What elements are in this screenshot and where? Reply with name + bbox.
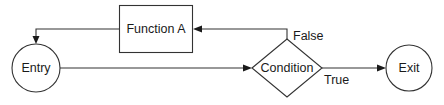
- arrowhead-icon: [243, 65, 252, 72]
- node-exit[interactable]: Exit: [386, 45, 432, 91]
- node-condition[interactable]: Condition: [252, 39, 322, 97]
- edge-function-a-to-entry: [33, 29, 120, 44]
- node-entry[interactable]: Entry: [12, 44, 60, 92]
- edge-label-true: True: [324, 73, 349, 87]
- arrowhead-icon: [33, 36, 40, 44]
- arrowhead-icon: [193, 26, 202, 33]
- edge-condition-to-function-a: [193, 26, 287, 40]
- exit-label: Exit: [399, 61, 420, 75]
- flowchart-diagram: Function A Entry Condition Exit False Tr…: [0, 0, 444, 105]
- edge-label-false: False: [293, 29, 324, 43]
- arrowhead-icon: [377, 65, 386, 72]
- function-a-label: Function A: [126, 22, 186, 36]
- entry-label: Entry: [21, 61, 51, 75]
- node-function-a[interactable]: Function A: [120, 6, 193, 53]
- edge-entry-to-condition: [60, 65, 252, 72]
- edge-condition-to-exit: [322, 65, 386, 72]
- condition-label: Condition: [261, 61, 314, 75]
